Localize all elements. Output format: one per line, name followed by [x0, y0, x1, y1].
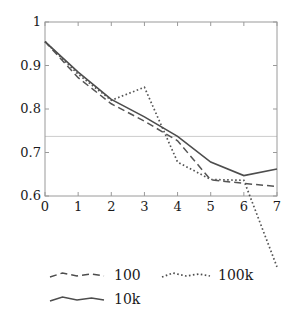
- x-tick-label: 6: [234, 200, 254, 213]
- legend-swatch-solid: [48, 288, 106, 310]
- y-tick-label: 0.9: [20, 59, 41, 72]
- x-tick-label: 5: [201, 200, 221, 213]
- x-tick-label: 1: [68, 200, 88, 213]
- y-tick-label: 1: [33, 15, 41, 28]
- x-tick-label: 0: [35, 200, 55, 213]
- series-line-100k: [45, 42, 277, 267]
- y-tick-label: 0.8: [20, 102, 41, 115]
- legend-entry-100k[interactable]: 100k: [160, 264, 278, 286]
- legend-label: 10k: [114, 288, 140, 310]
- x-tick-label: 3: [134, 200, 154, 213]
- x-tick-label: 2: [101, 200, 121, 213]
- axes-frame: [45, 22, 277, 196]
- legend-swatch-dashed: [48, 264, 106, 286]
- series-layer: [45, 42, 277, 267]
- legend-swatch-dotted: [160, 264, 212, 286]
- series-line-100: [45, 42, 277, 187]
- y-axis-ticks: [45, 22, 277, 196]
- x-axis-ticks: [45, 22, 277, 196]
- series-line-10k: [45, 42, 277, 176]
- y-tick-label: 0.7: [20, 146, 41, 159]
- chart-legend: 100100k10k: [0, 262, 291, 322]
- x-tick-label: 4: [168, 200, 188, 213]
- legend-entry-100[interactable]: 100: [48, 264, 174, 286]
- x-tick-label: 7: [267, 200, 287, 213]
- legend-label: 100: [114, 264, 141, 286]
- legend-entry-10k[interactable]: 10k: [48, 288, 174, 310]
- chart-figure: 10.90.80.70.6 01234567 100100k10k: [0, 0, 291, 327]
- legend-label: 100k: [218, 264, 253, 286]
